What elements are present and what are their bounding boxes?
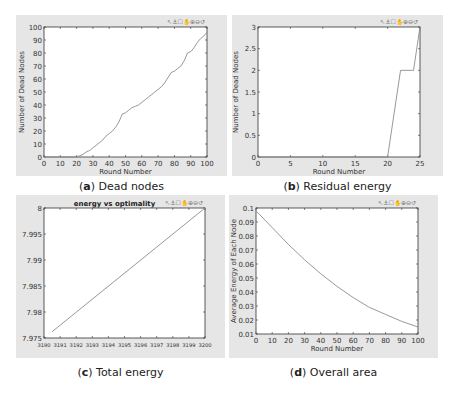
x-tick-label: 70	[154, 160, 163, 168]
y-tick-label: 100	[29, 24, 42, 32]
figure-panel-b: 051015202500.511.522.53Round NumberNumbe…	[232, 15, 443, 176]
x-tick-label: 20	[284, 337, 293, 345]
caption-c: (c) Total energy	[16, 366, 225, 379]
x-tick-label: 90	[397, 337, 406, 345]
reset-view-icon[interactable]: ↺	[413, 18, 418, 25]
x-tick-label: 3196	[134, 342, 147, 348]
figure-toolbar[interactable]: ↖⚓☐✋⊕⊖↺	[378, 199, 416, 206]
caption-b: (b) Residual energy	[232, 180, 443, 193]
caption-a: (a) Dead nodes	[16, 180, 227, 193]
caption-d: (d) Overall area	[229, 366, 438, 379]
y-tick-label: 7.995	[22, 231, 42, 239]
y-tick-label: 2.5	[245, 45, 256, 53]
rotate-icon[interactable]: ✋	[181, 199, 188, 206]
y-tick-label: 90	[33, 37, 42, 45]
y-tick-label: 0.04	[238, 289, 254, 297]
figure-toolbar[interactable]: ↖⚓☐✋⊕⊖↺	[165, 199, 203, 206]
x-tick-label: 40	[316, 337, 325, 345]
y-tick-label: 0	[38, 154, 42, 162]
y-tick-label: 2	[252, 67, 256, 75]
x-tick-label: 0	[254, 337, 258, 345]
x-tick-label: 40	[105, 160, 114, 168]
rotate-icon[interactable]: ✋	[394, 199, 401, 206]
x-tick-label: 20	[383, 160, 392, 168]
y-tick-label: 0.1	[243, 205, 254, 213]
x-tick-label: 3200	[198, 342, 211, 348]
x-tick-label: 30	[300, 337, 309, 345]
chart-d: 01020304050607080901000.010.020.030.040.…	[229, 195, 438, 358]
rotate-icon[interactable]: ✋	[183, 18, 190, 25]
plot-area	[258, 27, 420, 157]
x-tick-label: 5	[288, 160, 292, 168]
x-tick-label: 3198	[166, 342, 179, 348]
x-tick-label: 30	[88, 160, 97, 168]
x-tick-label: 80	[170, 160, 179, 168]
x-tick-label: 10	[318, 160, 327, 168]
y-tick-label: 1	[252, 110, 256, 118]
chart-title: energy vs optimality	[74, 200, 156, 208]
rotate-icon[interactable]: ✋	[396, 18, 403, 25]
y-tick-label: 3	[252, 24, 256, 32]
y-tick-label: 70	[33, 63, 42, 71]
y-tick-label: 0	[252, 154, 256, 162]
y-tick-label: 0.01	[238, 331, 254, 339]
x-tick-label: 3197	[150, 342, 163, 348]
y-axis-label: Average Energy of Each Node	[230, 219, 238, 323]
figure-toolbar[interactable]: ↖⚓☐✋⊕⊖↺	[380, 18, 418, 25]
x-tick-label: 10	[56, 160, 65, 168]
x-axis-label: Round Number	[99, 168, 152, 176]
y-tick-label: 10	[33, 141, 42, 149]
y-tick-label: 7.975	[22, 335, 42, 343]
x-tick-label: 60	[137, 160, 146, 168]
y-tick-label: 50	[33, 89, 42, 97]
x-tick-label: 50	[333, 337, 342, 345]
chart-b: 051015202500.511.522.53Round NumberNumbe…	[232, 15, 443, 176]
x-tick-label: 0	[42, 160, 46, 168]
chart-c: 3190319131923193319431953196319731983199…	[16, 195, 225, 358]
y-axis-label: Number of Dead Nodes	[232, 51, 240, 133]
x-tick-label: 3195	[118, 342, 131, 348]
x-axis-label: Round Number	[313, 168, 366, 176]
y-tick-label: 0.09	[238, 219, 254, 227]
y-tick-label: 0.05	[238, 275, 254, 283]
y-tick-label: 0.08	[238, 233, 254, 241]
y-tick-label: 7.985	[22, 283, 42, 291]
reset-view-icon[interactable]: ↺	[198, 199, 203, 206]
x-tick-label: 3190	[37, 342, 50, 348]
y-tick-label: 0.07	[238, 247, 254, 255]
x-tick-label: 10	[268, 337, 277, 345]
x-tick-label: 15	[351, 160, 360, 168]
x-tick-label: 0	[256, 160, 260, 168]
y-tick-label: 7.98	[26, 309, 42, 317]
y-tick-label: 8	[38, 205, 42, 213]
chart-a: 0102030405060708090100010203040506070809…	[16, 15, 227, 176]
x-tick-label: 3192	[70, 342, 83, 348]
x-tick-label: 70	[365, 337, 374, 345]
reset-view-icon[interactable]: ↺	[411, 199, 416, 206]
x-tick-label: 3191	[53, 342, 66, 348]
plot-area	[256, 208, 418, 334]
x-tick-label: 60	[349, 337, 358, 345]
y-tick-label: 0.06	[238, 261, 254, 269]
x-tick-label: 90	[186, 160, 195, 168]
y-tick-label: 40	[33, 102, 42, 110]
plot-area	[44, 27, 207, 157]
x-tick-label: 3194	[102, 342, 116, 348]
x-tick-label: 80	[381, 337, 390, 345]
x-tick-label: 3193	[86, 342, 99, 348]
x-tick-label: 20	[72, 160, 81, 168]
x-tick-label: 100	[200, 160, 213, 168]
x-tick-label: 25	[416, 160, 425, 168]
y-tick-label: 0.03	[238, 303, 254, 311]
figure-toolbar[interactable]: ↖⚓☐✋⊕⊖↺	[167, 18, 205, 25]
x-axis-label: Round Number	[311, 345, 364, 353]
y-tick-label: 80	[33, 50, 42, 58]
figure-panel-a: 0102030405060708090100010203040506070809…	[16, 15, 227, 176]
y-tick-label: 20	[33, 128, 42, 136]
y-tick-label: 60	[33, 76, 42, 84]
y-tick-label: 30	[33, 115, 42, 123]
y-tick-label: 0.5	[245, 132, 256, 140]
x-tick-label: 100	[411, 337, 424, 345]
x-tick-label: 3199	[182, 342, 195, 348]
reset-view-icon[interactable]: ↺	[200, 18, 205, 25]
